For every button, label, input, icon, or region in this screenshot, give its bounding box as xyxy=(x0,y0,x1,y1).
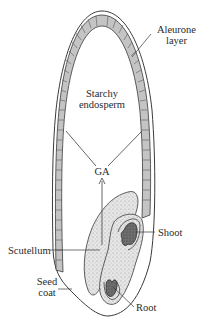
seed-coat-label: Seed coat xyxy=(34,276,60,298)
aleurone-layer-label: Aleurone layer xyxy=(150,24,203,46)
shoot-label: Shoot xyxy=(158,227,183,238)
scutellum-label: Scutellum xyxy=(8,245,51,256)
ga-label: GA xyxy=(90,166,114,177)
root-label: Root xyxy=(136,302,156,313)
starchy-endosperm-label: Starchy endosperm xyxy=(72,88,132,110)
